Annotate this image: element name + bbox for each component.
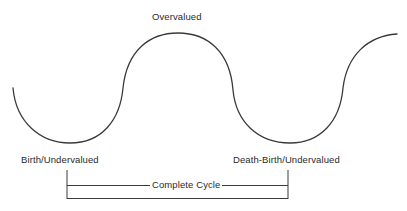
complete-cycle-label: Complete Cycle <box>150 180 222 190</box>
cycle-curve <box>13 33 397 143</box>
death-birth-undervalued-label: Death-Birth/Undervalued <box>233 155 340 165</box>
birth-undervalued-label: Birth/Undervalued <box>21 155 99 165</box>
overvalued-label: Overvalued <box>152 12 202 22</box>
